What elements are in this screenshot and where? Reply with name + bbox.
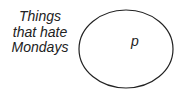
element-p: p — [130, 33, 139, 49]
venn-diagram: p — [0, 0, 181, 93]
set-ellipse — [79, 10, 173, 88]
